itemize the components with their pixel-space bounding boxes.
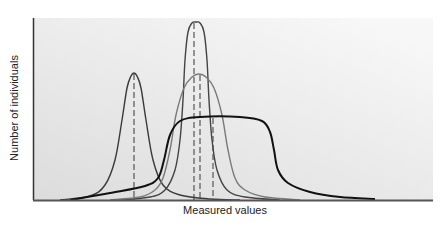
y-axis-label: Number of individuals xyxy=(8,43,22,173)
x-axis-label: Measured values xyxy=(150,204,300,216)
distribution-chart xyxy=(0,0,448,226)
